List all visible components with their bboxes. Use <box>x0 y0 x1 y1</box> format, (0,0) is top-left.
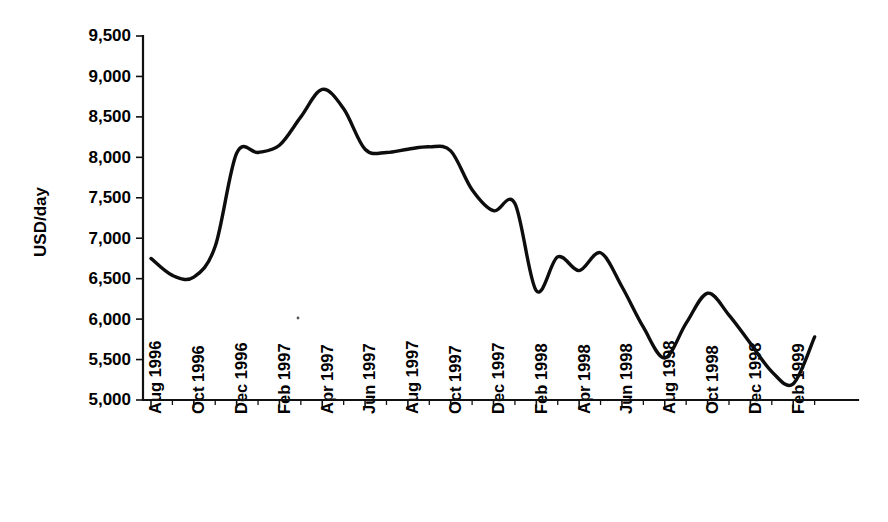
x-axis-tick-label: Oct 1996 <box>189 345 207 414</box>
y-axis-tick-label: 5,000 <box>88 390 131 409</box>
x-axis-tick-label: Dec 1997 <box>489 342 507 414</box>
y-axis-tick-labels: 9,5009,0008,5008,0007,5007,0006,5006,000… <box>88 26 131 409</box>
x-axis-tick-label: Jun 1998 <box>617 343 635 414</box>
y-axis-tick-label: 9,000 <box>88 67 131 86</box>
line-chart: USD/day 9,5009,0008,5008,0007,5007,0006,… <box>0 0 888 522</box>
y-axis-tick-label: 8,500 <box>88 107 131 126</box>
x-axis-tick-label: Jun 1997 <box>360 343 378 414</box>
y-axis-tick-label: 7,500 <box>88 188 131 207</box>
x-axis-tick-label: Dec 1998 <box>746 342 764 414</box>
y-axis-title-text: USD/day <box>31 187 50 257</box>
y-axis-title: USD/day <box>31 187 50 257</box>
x-axis-tick-label: Feb 1997 <box>275 343 293 414</box>
y-axis-tick-label: 9,500 <box>88 26 131 45</box>
scan-speck <box>297 317 300 320</box>
chart-container: USD/day 9,5009,0008,5008,0007,5007,0006,… <box>0 0 888 522</box>
x-axis-tick-label: Oct 1998 <box>703 345 721 414</box>
x-axis-tick-label: Dec 1996 <box>232 342 250 414</box>
y-axis-tick-label: 7,000 <box>88 229 131 248</box>
x-axis-tick-label: Aug 1997 <box>403 341 421 414</box>
x-axis-tick-label: Feb 1998 <box>532 343 550 414</box>
y-axis-tick-label: 6,000 <box>88 310 131 329</box>
x-axis-tick-label: Apr 1998 <box>575 344 593 414</box>
x-axis-tick-label: Aug 1996 <box>146 341 164 414</box>
y-axis-tick-label: 6,500 <box>88 269 131 288</box>
data-series-line <box>151 89 815 385</box>
y-axis-tick-label: 5,500 <box>88 350 131 369</box>
x-axis-tick-label: Apr 1997 <box>318 344 336 414</box>
x-axis-tick-label: Aug 1998 <box>660 341 678 414</box>
x-axis-tick-label: Oct 1997 <box>446 345 464 414</box>
y-axis-tick-label: 8,000 <box>88 148 131 167</box>
